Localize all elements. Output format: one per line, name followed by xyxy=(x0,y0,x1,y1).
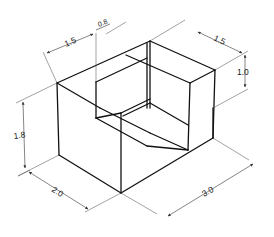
label-notch-depth: 1.5 xyxy=(63,35,78,49)
label-notch-width: 0.8 xyxy=(97,18,109,28)
label-length-side: 3.0 xyxy=(200,184,215,199)
block-edges xyxy=(57,41,215,193)
isometric-drawing: 1.8 2.0 3.0 1.0 1.5 1.5 0.8 xyxy=(0,0,274,237)
label-height: 1.8 xyxy=(13,129,26,141)
label-step-height: 1.0 xyxy=(237,67,249,77)
